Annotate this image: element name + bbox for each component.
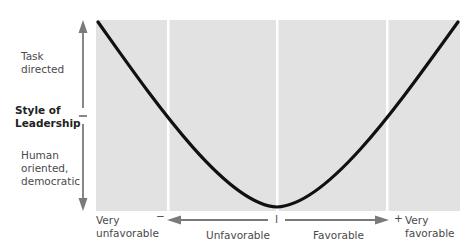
unfavorable-label: Unfavorable xyxy=(206,229,270,242)
panel-divider-2 xyxy=(276,20,279,211)
human-oriented-label: Human oriented, democratic xyxy=(21,149,80,188)
arrow-right-icon xyxy=(375,216,389,225)
very-favorable-line1: Very xyxy=(405,214,455,227)
leadership-contingency-diagram: Task directed Style of Leadership Human … xyxy=(0,0,475,251)
task-directed-line2: directed xyxy=(21,63,64,76)
very-unfavorable-label: Very unfavorable xyxy=(96,214,159,240)
human-oriented-line1: Human xyxy=(21,149,80,162)
plus-sign: + xyxy=(394,212,403,225)
minus-sign: − xyxy=(156,210,165,223)
y-axis-title-line2: Leadership xyxy=(15,117,81,130)
favorable-label: Favorable xyxy=(313,229,364,242)
y-axis-title: Style of Leadership xyxy=(15,104,81,130)
human-oriented-line2: oriented, xyxy=(21,162,80,175)
very-unfavorable-line2: unfavorable xyxy=(96,227,159,240)
arrow-up-icon xyxy=(79,20,88,33)
task-directed-label: Task directed xyxy=(21,50,64,76)
very-favorable-line2: favorable xyxy=(405,227,455,240)
human-oriented-line3: democratic xyxy=(21,175,80,188)
y-axis-title-line1: Style of xyxy=(15,104,81,117)
arrow-down-icon xyxy=(79,198,88,211)
arrow-left-icon xyxy=(167,216,181,225)
very-favorable-label: Very favorable xyxy=(405,214,455,240)
very-unfavorable-line1: Very xyxy=(96,214,159,227)
center-tick: I xyxy=(275,213,278,226)
task-directed-line1: Task xyxy=(21,50,64,63)
